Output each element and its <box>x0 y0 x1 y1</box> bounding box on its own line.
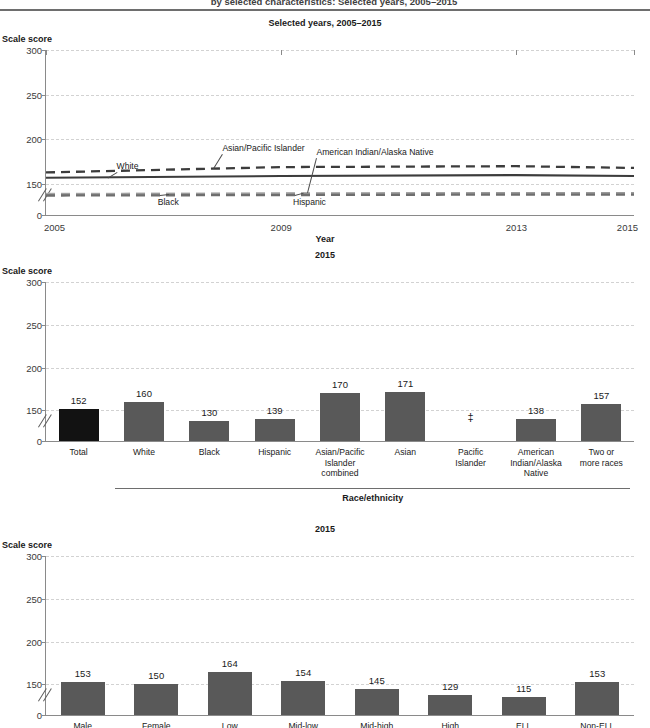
line-chart-label-hispanic: Hispanic <box>293 197 326 207</box>
race-chart-category-label-line: Islander <box>435 458 506 469</box>
race-chart-category-label-line: Asian <box>370 447 441 458</box>
race-chart-y-tick-mark <box>42 441 46 442</box>
race-chart-category-label-line: Native <box>500 468 571 479</box>
race-chart-category-label-line: American <box>500 447 571 458</box>
characteristic-chart-category-label: Low <box>190 721 270 728</box>
race-chart-category-label: Asian <box>370 447 441 458</box>
race-chart-suppressed-marker: ‡ <box>468 411 474 423</box>
characteristic-chart-bar-column <box>355 556 399 715</box>
line-chart-y-tick-label: 200 <box>26 134 42 145</box>
race-chart-bar-column <box>255 282 295 441</box>
characteristic-chart-bar <box>502 697 546 715</box>
characteristic-chart-bar <box>61 682 105 715</box>
race-chart-category-label-line: Islander <box>304 458 375 469</box>
characteristic-chart-bar <box>281 681 325 715</box>
characteristic-chart-category-label: ELL <box>484 721 564 728</box>
characteristic-chart-category-label-line: Non-ELL <box>558 721 638 728</box>
characteristic-chart-y-tick-mark <box>42 715 46 716</box>
race-chart-bar-value-label: 160 <box>136 388 152 399</box>
race-chart-bar-value-label: 157 <box>593 390 609 401</box>
line-chart-label-american-indian-alaska-native: American Indian/Alaska Native <box>316 147 433 157</box>
characteristic-chart-y-tick-mark <box>42 642 46 643</box>
race-chart-bar-column <box>581 282 621 441</box>
characteristic-chart-category-label: Mid-low <box>264 721 344 728</box>
race-chart-category-label: Black <box>174 447 245 458</box>
race-chart-bar <box>516 419 556 441</box>
characteristic-chart-bar <box>134 684 178 715</box>
characteristic-chart-bar-value-label: 129 <box>442 681 458 692</box>
characteristic-chart-bar-column <box>575 556 619 715</box>
race-chart-category-label-line: Two or <box>566 447 637 458</box>
line-chart-x-tick-label: 2009 <box>271 222 292 233</box>
characteristic-chart-category-label-line: Low <box>190 721 270 728</box>
race-chart-group-bracket <box>115 488 630 489</box>
line-chart-x-axis-title: Year <box>0 234 650 244</box>
race-chart-y-tick-mark <box>42 325 46 326</box>
line-chart-label-white: White <box>117 161 139 171</box>
race-chart-bar <box>59 409 99 441</box>
characteristic-chart-bar-value-label: 154 <box>295 667 311 678</box>
race-chart-category-label: Two ormore races <box>566 447 637 468</box>
race-chart-category-label-line: combined <box>304 468 375 479</box>
characteristic-chart-category-label: High <box>411 721 491 728</box>
characteristic-chart-bar-column <box>208 556 252 715</box>
race-chart-bar-value-label: 171 <box>397 378 413 389</box>
race-chart-y-tick-mark <box>42 282 46 283</box>
race-chart-bar-value-label: 170 <box>332 379 348 390</box>
race-chart-category-label: Total <box>43 447 114 458</box>
race-chart-bar <box>189 421 229 441</box>
race-chart-bar <box>581 404 621 441</box>
race-chart-category-label-line: Black <box>174 447 245 458</box>
characteristic-chart-category-label-line: Male <box>43 721 123 728</box>
race-chart-bar-value-label: 139 <box>267 405 283 416</box>
race-chart-category-label: AmericanIndian/AlaskaNative <box>500 447 571 479</box>
characteristic-chart-bar-value-label: 150 <box>148 670 164 681</box>
race-chart-bar <box>320 393 360 441</box>
line-chart-label-asian-pacific-islander: Asian/Pacific Islander <box>222 143 304 153</box>
characteristic-chart-y-tick-label: 250 <box>26 593 42 604</box>
line-chart-y-tick-label: 0 <box>37 210 42 221</box>
characteristic-chart-y-tick-mark <box>42 556 46 557</box>
characteristic-chart-bar-column <box>61 556 105 715</box>
line-chart-series-layer <box>46 50 634 215</box>
characteristic-chart-category-label: Mid-high <box>337 721 417 728</box>
characteristic-chart-y-tick-mark <box>42 599 46 600</box>
characteristic-chart-bar-value-label: 153 <box>75 668 91 679</box>
race-chart-bar <box>255 419 295 441</box>
race-chart-category-label: Hispanic <box>239 447 310 458</box>
characteristic-chart-bar <box>355 689 399 715</box>
line-chart-y-tick-mark <box>42 215 46 216</box>
characteristic-chart-bar-value-label: 164 <box>222 658 238 669</box>
characteristic-chart-category-label: Non-ELL <box>558 721 638 728</box>
characteristic-chart-plot-area: 0150200250300153Male150Female164Low154Mi… <box>45 556 634 716</box>
characteristic-chart-category-label: Female <box>117 721 197 728</box>
characteristic-chart-y-axis-title: Scale score <box>2 540 52 550</box>
race-chart-category-label-line: Total <box>43 447 114 458</box>
characteristic-chart-bar-column <box>134 556 178 715</box>
line-chart-label-black: Black <box>158 197 179 207</box>
line-chart-x-tick-label: 2015 <box>617 222 638 233</box>
race-chart-y-axis-break <box>38 411 54 429</box>
race-chart-bar-value-label: 130 <box>201 407 217 418</box>
race-chart-y-tick-mark <box>42 368 46 369</box>
line-series-white <box>46 175 634 178</box>
race-chart-bar-column <box>320 282 360 441</box>
characteristic-chart-bar <box>575 682 619 715</box>
line-chart-subtitle: Selected years, 2005–2015 <box>0 18 650 28</box>
race-chart-category-label-line: Indian/Alaska <box>500 458 571 469</box>
race-chart-plot-area: 0150200250300152Total160White130Black139… <box>45 282 634 442</box>
line-chart-y-axis-title: Scale score <box>2 34 52 44</box>
race-chart-category-label-line: Pacific <box>435 447 506 458</box>
race-chart-category-label: Asian/PacificIslandercombined <box>304 447 375 479</box>
race-chart-y-tick-label: 0 <box>37 436 42 447</box>
characteristic-chart-bar-value-label: 115 <box>516 683 531 694</box>
race-chart-y-tick-label: 250 <box>26 319 42 330</box>
characteristic-chart-bar-column <box>281 556 325 715</box>
title-divider <box>0 9 650 11</box>
characteristic-bar-chart-panel: 2015 Scale score 0150200250300153Male150… <box>0 510 650 728</box>
characteristic-chart-bar <box>208 672 252 715</box>
chart-page: by selected characteristics: Selected ye… <box>0 0 650 728</box>
line-chart-y-tick-label: 300 <box>26 45 42 56</box>
document-title: by selected characteristics: Selected ye… <box>54 0 614 7</box>
race-chart-category-label-line: White <box>108 447 179 458</box>
